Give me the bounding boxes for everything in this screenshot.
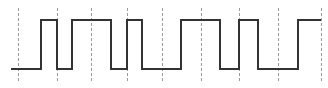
signal-waveform bbox=[11, 20, 321, 69]
clock-gridlines bbox=[19, 8, 322, 82]
timing-diagram bbox=[0, 0, 328, 88]
